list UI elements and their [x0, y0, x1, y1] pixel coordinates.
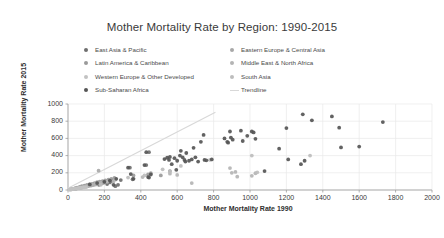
- data-point: [126, 166, 130, 170]
- data-point: [310, 118, 314, 122]
- data-point: [223, 137, 227, 141]
- data-point: [277, 147, 281, 151]
- data-point: [97, 169, 101, 173]
- gridlines: [68, 104, 432, 190]
- data-point: [241, 139, 245, 143]
- data-point: [210, 158, 214, 162]
- data-point: [381, 120, 385, 124]
- data-point: [357, 145, 361, 149]
- data-point: [255, 170, 259, 174]
- data-point: [245, 134, 249, 138]
- data-point: [204, 158, 208, 162]
- data-point: [114, 177, 118, 181]
- data-point: [183, 160, 187, 164]
- data-point: [226, 141, 230, 145]
- data-point: [174, 168, 178, 172]
- data-point: [250, 154, 254, 158]
- data-point: [132, 177, 136, 181]
- data-point: [99, 183, 103, 187]
- data-point: [339, 146, 343, 150]
- data-point: [175, 159, 179, 163]
- data-point: [143, 163, 147, 167]
- data-point: [194, 155, 198, 159]
- data-point: [95, 181, 99, 185]
- y-axis-title: Mother Mortality Rate 2015: [20, 47, 27, 169]
- data-point: [254, 137, 258, 141]
- data-point: [126, 176, 130, 180]
- data-point: [330, 115, 334, 119]
- x-tick-label: 2000: [416, 194, 444, 201]
- x-tick-label: 400: [125, 194, 157, 201]
- data-point: [184, 151, 188, 155]
- data-point: [231, 138, 235, 142]
- x-tick-label: 1200: [270, 194, 302, 201]
- x-tick-label: 600: [161, 194, 193, 201]
- data-point: [252, 130, 256, 134]
- data-point: [234, 170, 238, 174]
- y-tick-label: 0: [28, 186, 63, 193]
- data-point: [159, 173, 163, 177]
- plot-svg: [0, 0, 444, 238]
- data-point: [84, 185, 88, 189]
- data-point: [199, 140, 203, 144]
- y-tick-label: 600: [28, 134, 63, 141]
- scatter-chart: Mother Mortality Rate by Region: 1990-20…: [0, 0, 444, 238]
- data-point: [202, 133, 206, 137]
- data-point: [308, 154, 312, 158]
- data-point: [303, 159, 307, 163]
- data-point: [175, 173, 179, 177]
- data-point: [161, 167, 165, 171]
- data-point: [192, 146, 196, 150]
- data-point: [168, 155, 172, 159]
- x-tick-label: 0: [52, 194, 84, 201]
- data-point: [116, 183, 120, 187]
- data-point: [143, 173, 147, 177]
- series-middle-east-and-north-africa: [73, 166, 257, 190]
- data-point: [196, 160, 200, 164]
- data-point: [103, 180, 107, 184]
- x-axis-title: Mother Mortality Rate 1990: [68, 205, 428, 212]
- data-point: [129, 172, 133, 176]
- x-tick-label: 1600: [343, 194, 375, 201]
- x-tick-label: 1400: [307, 194, 339, 201]
- data-point: [250, 174, 254, 178]
- data-point: [286, 158, 290, 162]
- x-tick-label: 800: [198, 194, 230, 201]
- data-point: [190, 158, 194, 162]
- data-point: [108, 179, 112, 183]
- plot-area: [0, 0, 444, 238]
- y-tick-label: 200: [28, 168, 63, 175]
- x-tick-label: 200: [88, 194, 120, 201]
- data-point: [88, 183, 92, 187]
- x-tick-label: 1000: [234, 194, 266, 201]
- data-point: [144, 150, 148, 154]
- data-point: [239, 129, 243, 133]
- data-point: [119, 178, 123, 182]
- y-tick-label: 800: [28, 117, 63, 124]
- x-tick-label: 1800: [380, 194, 412, 201]
- y-tick-label: 400: [28, 151, 63, 158]
- data-point: [235, 175, 239, 179]
- data-points: [68, 112, 385, 191]
- data-point: [112, 183, 116, 187]
- y-tick-label: 1000: [28, 100, 63, 107]
- data-point: [299, 162, 303, 166]
- data-point: [230, 171, 234, 175]
- data-point: [228, 130, 232, 134]
- data-point: [149, 173, 153, 177]
- data-point: [168, 170, 172, 174]
- data-point: [228, 166, 232, 170]
- data-point: [263, 169, 267, 173]
- data-point: [179, 149, 183, 153]
- data-point: [285, 126, 289, 130]
- data-point: [190, 181, 194, 185]
- data-point: [301, 112, 305, 116]
- data-point: [179, 164, 183, 168]
- data-point: [170, 162, 174, 166]
- data-point: [337, 126, 341, 130]
